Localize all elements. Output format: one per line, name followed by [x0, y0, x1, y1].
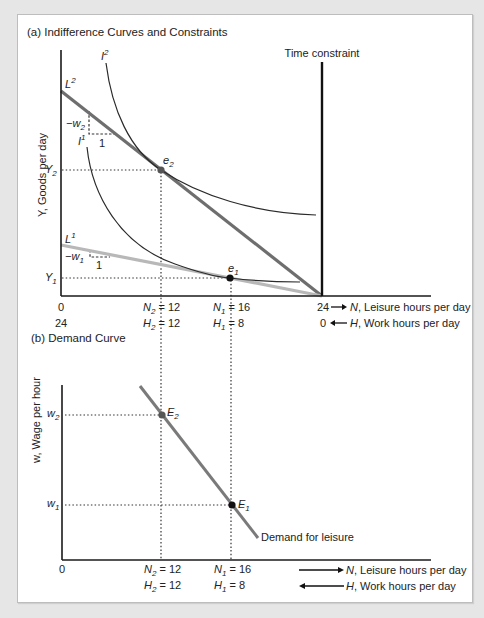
indifference-curve-I1	[87, 147, 300, 282]
label-w2: w2	[47, 407, 60, 422]
label-b-H-axis: H, Work hours per day	[346, 580, 456, 592]
panel-a-title: (a) Indifference Curves and Constraints	[27, 26, 228, 38]
label-w1: w1	[47, 497, 59, 512]
label-L2: L2	[65, 76, 76, 90]
label-a-N-axis: N, Leisure hours per day	[350, 301, 471, 313]
label-I2: I2	[101, 48, 109, 62]
label-e2: e2	[163, 154, 174, 169]
label-I1: I1	[78, 133, 86, 147]
label-demand-for-leisure: Demand for leisure	[261, 531, 354, 543]
point-e1	[226, 274, 233, 281]
label-minus-w1: −w1	[65, 250, 84, 265]
tick-b-H2: H2 = 12	[144, 579, 181, 594]
point-E1	[228, 501, 235, 508]
tick-b-H1: H1 = 8	[214, 579, 245, 594]
tick-b-N1: N1 = 16	[214, 563, 251, 578]
point-E2	[158, 411, 165, 418]
label-L1: L1	[65, 231, 76, 245]
tick-a-work-24: 24	[55, 317, 67, 329]
tick-a-leisure-24: 24	[317, 301, 329, 313]
label-Y1: Y1	[45, 271, 57, 286]
point-e2	[157, 166, 164, 173]
label-a-H-axis: H, Work hours per day	[350, 317, 460, 329]
arrow-left-long-icon	[299, 583, 344, 589]
arrow-right-icon	[331, 304, 347, 310]
label-run-1-lower: 1	[96, 259, 102, 271]
time-constraint-label: Time constraint	[285, 47, 360, 59]
label-minus-w2: −w2	[66, 117, 85, 132]
panel-b-guides	[65, 415, 230, 505]
panel-b-title: (b) Demand Curve	[31, 332, 126, 344]
indifference-curve-I2	[106, 63, 316, 215]
tick-a-H1: H1 = 8	[213, 317, 244, 332]
arrow-right-long-icon	[299, 567, 344, 573]
panel-b-y-axis-label: w, Wage per hour	[30, 377, 42, 464]
arrow-left-icon	[330, 320, 347, 326]
panel-a-guides	[62, 170, 231, 560]
tick-b-N2: N2 = 12	[144, 563, 181, 578]
tick-b-leisure-0: 0	[59, 563, 65, 575]
label-b-N-axis: N, Leisure hours per day	[346, 564, 467, 576]
demand-curve	[140, 386, 258, 538]
label-E1: E1	[238, 498, 250, 513]
label-run-1-upper: 1	[99, 137, 105, 149]
tick-a-leisure-0: 0	[58, 301, 64, 313]
tick-a-work-0: 0	[320, 317, 326, 329]
tick-a-H2: H2 = 12	[143, 317, 180, 332]
label-E2: E2	[167, 406, 179, 421]
figure-svg: (a) Indifference Curves and Constraints …	[0, 0, 484, 618]
